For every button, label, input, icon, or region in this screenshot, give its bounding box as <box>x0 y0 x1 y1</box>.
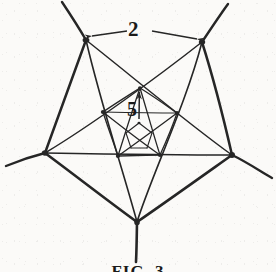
figure-caption: FIG. 3 <box>0 262 276 272</box>
vertex-blob-bottom <box>134 219 140 225</box>
vertex-blob-group <box>42 37 235 225</box>
mid-diag-top-to-lowerright <box>140 88 160 155</box>
ray-right <box>232 155 272 178</box>
vertex-blob-right <box>229 152 235 158</box>
outer-edge-right-upper <box>202 42 232 155</box>
ray-top-right <box>202 4 228 42</box>
mid-diag-upperleft-to-upperright <box>103 112 177 113</box>
ray-left <box>6 153 45 166</box>
vertex-blob-mid-upper-right <box>175 111 179 115</box>
outer-pentagon-group <box>45 40 232 222</box>
vertex-blob-inner-top <box>138 122 141 125</box>
vertex-blob-top-left <box>83 37 90 42</box>
inner-edge-left <box>126 133 131 148</box>
vertex-blob-mid-lower-left <box>116 154 120 158</box>
vertex-blob-mid-upper-left <box>101 110 105 114</box>
vertex-blob-mid-lower-right <box>158 153 162 157</box>
diagonal-topleft-to-right <box>86 40 232 155</box>
mid-edge-top-right <box>140 88 177 113</box>
dimension-2-left-segment <box>92 31 127 36</box>
ray-bottom <box>136 222 137 262</box>
dimension-label-5: 5 <box>127 99 137 119</box>
outer-edge-left-upper <box>45 40 86 153</box>
outer-pentagram-diagonals <box>45 40 232 222</box>
vertex-blob-mid-top <box>138 86 142 90</box>
mid-edge-bottom <box>118 155 160 156</box>
vertex-blob-left <box>42 150 48 156</box>
vertex-blob-top-right <box>199 39 205 44</box>
diagonal-left-to-right <box>45 153 232 155</box>
dimension-label-2: 2 <box>128 19 139 40</box>
figure-page: 2 5 FIG. 3 <box>0 0 276 272</box>
outer-edge-right-lower <box>137 155 232 222</box>
outer-edge-left-lower <box>45 153 137 222</box>
inner-pentagon-group <box>126 123 152 148</box>
ray-top-left <box>62 2 86 40</box>
dimension-line-2-group <box>92 31 197 39</box>
inner-edge-top-right <box>139 123 152 133</box>
dimension-2-right-segment <box>152 31 197 39</box>
